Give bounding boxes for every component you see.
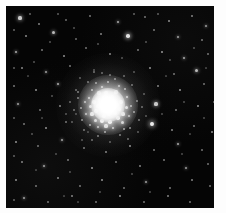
image-page: Dense spherical globular star cluster wi… <box>0 0 226 213</box>
sky-image-frame: Dense spherical globular star cluster wi… <box>6 6 214 208</box>
sky-background-gradient <box>6 6 214 208</box>
